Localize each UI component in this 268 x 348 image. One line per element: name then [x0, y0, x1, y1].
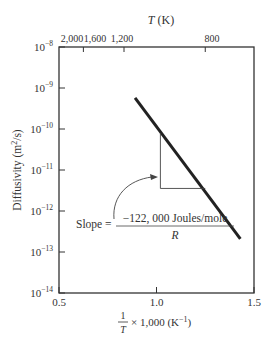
- y-tick-label: 10−12: [30, 203, 53, 217]
- arrowhead-icon: [150, 174, 158, 180]
- y-tick-label: 10−9: [34, 80, 53, 94]
- y-tick-label: 10−8: [34, 39, 53, 53]
- y-tick-label: 10−13: [30, 244, 53, 258]
- top-axis-title: T (K): [148, 13, 174, 27]
- top-tick-label: 1,600: [84, 33, 107, 44]
- top-tick-label: 2,000: [61, 33, 84, 44]
- x-tick-label: 1.0: [150, 296, 164, 308]
- y-tick-label: 10−10: [30, 121, 53, 135]
- y-tick-label: 10−11: [31, 162, 54, 176]
- y-tick-label: 10−14: [30, 285, 53, 299]
- arrhenius-chart: 10−810−910−1010−1110−1210−1310−14 0.51.0…: [0, 0, 268, 348]
- x-tick-label: 1.5: [247, 296, 261, 308]
- slope-numerator: −122, 000 Joules/mole: [123, 212, 228, 225]
- slope-label: Slope =: [76, 218, 112, 231]
- x-axis-label: 1 T × 1,000 (K−1): [118, 310, 192, 335]
- svg-text:× 1,000 (K−1): × 1,000 (K−1): [131, 315, 192, 329]
- top-tick-label: 800: [205, 33, 220, 44]
- slope-denominator: R: [170, 229, 178, 241]
- plot-frame: [59, 47, 254, 293]
- y-axis-ticks: 10−810−910−1010−1110−1210−1310−14: [30, 39, 65, 299]
- top-axis-ticks: 2,0001,6001,200800: [61, 33, 220, 52]
- top-tick-label: 1,200: [111, 33, 134, 44]
- x-tick-label: 0.5: [52, 296, 66, 308]
- svg-text:T: T: [120, 324, 127, 335]
- y-axis-label: Diffusivity (m2/s): [10, 129, 24, 211]
- svg-text:1: 1: [121, 310, 126, 321]
- x-axis-ticks: 0.51.01.5: [52, 287, 261, 308]
